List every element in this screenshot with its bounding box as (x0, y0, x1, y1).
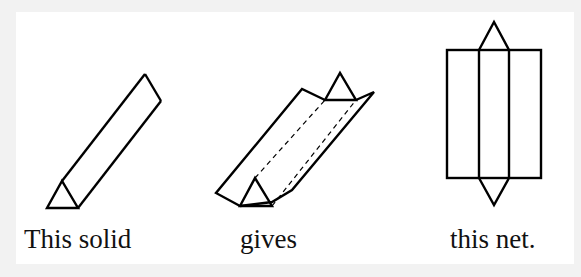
prism-net-shape (447, 22, 541, 205)
unfolding-prism-shape (216, 73, 374, 206)
fold-lines-dashed (255, 100, 356, 206)
caption-net: this net. (450, 226, 536, 253)
solid-prism-shape (47, 74, 161, 208)
caption-solid: This solid (24, 226, 131, 253)
caption-gives: gives (240, 226, 297, 253)
